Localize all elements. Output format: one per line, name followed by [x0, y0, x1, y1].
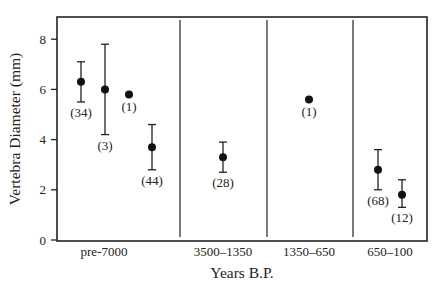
y-tick-label: 4: [40, 132, 47, 147]
data-point: [77, 78, 85, 86]
sample-size-label: (1): [301, 104, 316, 119]
x-category-label: 650–100: [367, 244, 413, 259]
y-tick-label: 2: [40, 182, 47, 197]
chart: 02468 pre-70003500–13501350–650650–100 (…: [0, 0, 440, 289]
sample-size-label: (68): [367, 193, 389, 208]
data-point-group: (1): [121, 90, 136, 114]
sample-size-label: (12): [391, 210, 413, 225]
data-point-group: (12): [391, 180, 413, 226]
x-category-label: 3500–1350: [194, 244, 253, 259]
data-point: [398, 191, 406, 199]
sample-size-label: (1): [121, 99, 136, 114]
data-point: [148, 143, 156, 151]
data-point: [305, 95, 313, 103]
sample-size-label: (28): [212, 175, 234, 190]
y-tick-label: 0: [40, 233, 47, 248]
x-axis-title: Years B.P.: [210, 264, 273, 281]
data-point-group: (28): [212, 142, 234, 190]
y-tick-label: 6: [40, 82, 47, 97]
x-category-label: 1350–650: [283, 244, 335, 259]
sample-size-label: (44): [141, 173, 163, 188]
data-point-group: (68): [367, 150, 389, 208]
data-point: [219, 153, 227, 161]
data-point-group: (1): [301, 95, 316, 119]
sample-size-label: (34): [70, 105, 92, 120]
data-point: [374, 166, 382, 174]
x-category-label: pre-7000: [81, 244, 128, 259]
y-tick-label: 8: [40, 32, 47, 47]
data-point-group: (3): [97, 44, 112, 152]
data-point: [101, 85, 109, 93]
y-axis-title: Vertebra Diameter (mm): [6, 53, 24, 205]
data-points: (34)(3)(1)(44)(28)(1)(68)(12): [70, 44, 413, 225]
sample-size-label: (3): [97, 138, 112, 153]
data-point: [125, 90, 133, 98]
x-axis: pre-70003500–13501350–650650–100: [81, 244, 413, 259]
data-point-group: (44): [141, 125, 163, 188]
y-axis: 02468: [40, 32, 58, 248]
data-point-group: (34): [70, 62, 92, 120]
